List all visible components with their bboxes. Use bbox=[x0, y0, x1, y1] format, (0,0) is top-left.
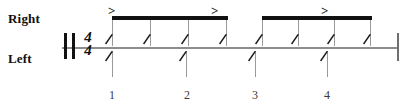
right-hand-notehead-7 bbox=[327, 34, 336, 45]
left-hand-notehead-1 bbox=[105, 51, 114, 62]
accent-3-mark: > bbox=[321, 4, 328, 17]
left-hand-notehead-4 bbox=[320, 51, 329, 62]
left-hand-label: Left bbox=[8, 51, 32, 67]
beam-group-2 bbox=[262, 16, 372, 20]
right-hand-label: Right bbox=[8, 11, 40, 27]
time-signature-denominator: 4 bbox=[80, 44, 96, 57]
time-signature: 4 4 bbox=[80, 31, 96, 57]
right-hand-notehead-4 bbox=[219, 34, 228, 45]
right-hand-notehead-3 bbox=[181, 34, 190, 45]
accent-1-mark: > bbox=[108, 4, 115, 17]
accent-2-mark: > bbox=[211, 4, 218, 17]
final-barline bbox=[397, 33, 399, 61]
left-hand-notehead-2 bbox=[179, 51, 188, 62]
right-hand-notehead-1 bbox=[105, 34, 114, 45]
right-hand-notehead-8 bbox=[363, 34, 372, 45]
staff-line bbox=[62, 47, 398, 49]
double-barline-left-1 bbox=[64, 33, 67, 59]
right-hand-notehead-2 bbox=[143, 34, 152, 45]
percussion-notation-sheet: Right Left 4 4 >>> 1234 bbox=[0, 0, 410, 108]
beat-number-2: 2 bbox=[180, 88, 194, 103]
right-hand-notehead-6 bbox=[291, 34, 300, 45]
left-hand-notehead-3 bbox=[248, 51, 257, 62]
beat-number-1: 1 bbox=[105, 88, 119, 103]
beat-number-3: 3 bbox=[248, 88, 262, 103]
right-hand-notehead-5 bbox=[255, 34, 264, 45]
double-barline-left-2 bbox=[72, 33, 75, 59]
beat-number-4: 4 bbox=[320, 88, 334, 103]
